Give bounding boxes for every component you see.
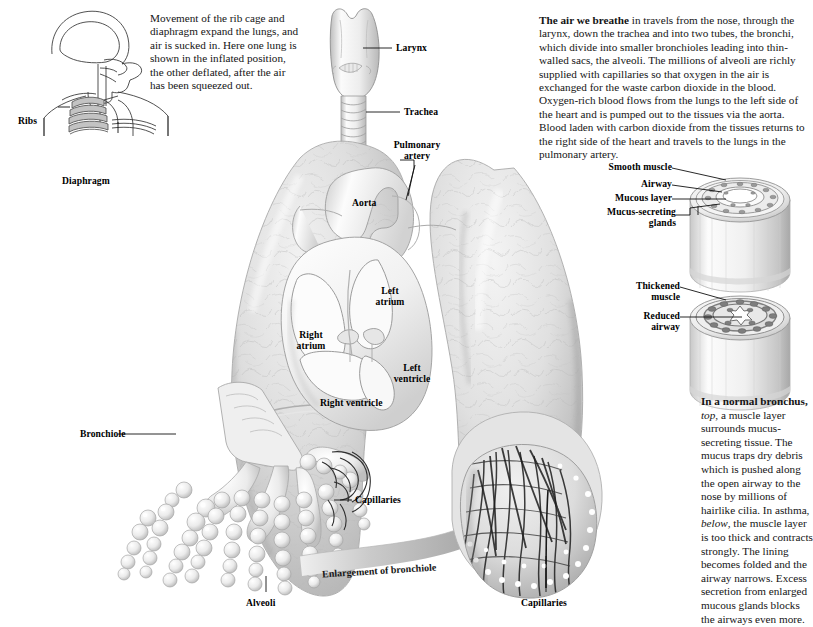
bronchus-paragraph-part1: , a muscle layer surrounds mucus-secreti…	[701, 409, 809, 516]
label-larynx: Larynx	[396, 43, 427, 54]
label-thickened-muscle: Thickened muscle	[598, 281, 680, 302]
bronchus-paragraph-lead: In a normal bronchus,	[701, 395, 808, 407]
bronchus-paragraph-italic-below: below	[701, 517, 728, 529]
intro-text: Movement of the rib cage and diaphragm e…	[150, 12, 298, 91]
label-trachea: Trachea	[404, 107, 438, 118]
bronchus-normal	[690, 178, 790, 292]
air-paragraph-body: in travels from the nose, through the la…	[539, 14, 805, 160]
label-airway: Airway	[606, 179, 672, 190]
bronchiole-enlargement	[452, 412, 602, 598]
label-pulmonary-artery: Pulmonary artery	[386, 140, 448, 161]
label-diaphragm: Diaphragm	[62, 176, 110, 187]
label-right-atrium: Right atrium	[288, 330, 334, 351]
bronchus-asthma	[690, 296, 790, 410]
label-left-atrium: Left atrium	[368, 286, 412, 307]
air-paragraph-lead: The air we breathe	[539, 14, 629, 26]
label-bronchiole: Bronchiole	[80, 429, 126, 440]
label-smooth-muscle: Smooth muscle	[586, 162, 672, 173]
label-reduced-airway: Reduced airway	[602, 311, 680, 332]
label-capillaries-right: Capillaries	[521, 598, 567, 609]
label-ribs: Ribs	[18, 116, 37, 127]
label-aorta: Aorta	[352, 198, 376, 209]
label-capillaries-left: Capillaries	[355, 495, 401, 506]
bronchus-paragraph-part2: , the muscle layer is too thick and cont…	[701, 517, 813, 624]
bronchus-paragraph-italic-top: top	[701, 409, 715, 421]
label-alveoli: Alveoli	[246, 598, 275, 609]
label-left-ventricle: Left ventricle	[388, 363, 436, 384]
label-mucus-secreting-glands: Mucus-secreting glands	[582, 207, 676, 228]
air-paragraph: The air we breathe in travels from the n…	[539, 14, 811, 161]
label-right-ventricle: Right ventricle	[320, 398, 383, 409]
label-mucous-layer: Mucous layer	[588, 193, 672, 204]
intro-paragraph: Movement of the rib cage and diaphragm e…	[150, 12, 300, 92]
bronchus-paragraph: In a normal bronchus, top, a muscle laye…	[701, 395, 813, 626]
